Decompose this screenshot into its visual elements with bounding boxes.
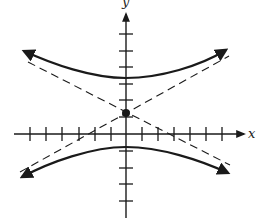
center-point (122, 109, 130, 117)
x-axis-label: x (248, 126, 256, 141)
hyperbola-upper-branch-left (24, 51, 126, 78)
graph-canvas: x y (0, 0, 267, 224)
y-axis-label: y (121, 0, 130, 9)
hyperbola-diagram: x y (0, 0, 267, 224)
x-axis: x (14, 126, 256, 141)
hyperbola-upper-branch (126, 50, 226, 78)
hyperbola-lower-branch (126, 147, 228, 173)
